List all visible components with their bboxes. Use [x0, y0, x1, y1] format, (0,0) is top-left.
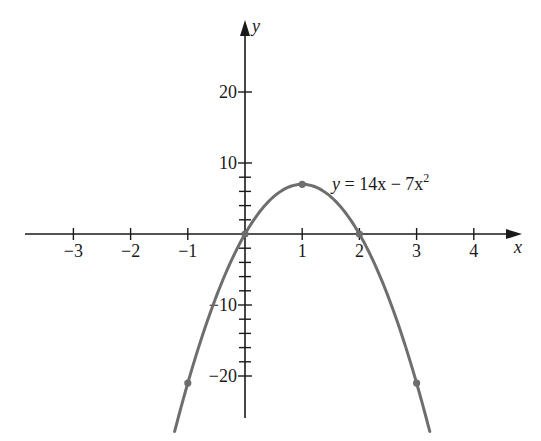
y-tick-label: −20: [209, 366, 237, 386]
y-axis-label: y: [250, 16, 260, 36]
x-tick-label: 2: [355, 241, 364, 261]
marked-points: [184, 181, 420, 387]
x-axis-label: x: [513, 237, 522, 257]
y-axis-arrow-icon: [240, 20, 250, 36]
data-point: [299, 181, 306, 188]
data-point: [413, 380, 420, 387]
y-tick-label: 20: [219, 82, 237, 102]
equation-label: y = 14x − 7x2: [330, 171, 429, 194]
x-tick-label: 4: [469, 241, 478, 261]
x-ticks: −3−2−11234: [64, 228, 478, 261]
x-tick-label: 3: [412, 241, 421, 261]
data-point: [184, 380, 191, 387]
axes: x y: [25, 16, 522, 418]
y-tick-label: 10: [219, 153, 237, 173]
parabola-curve: [175, 184, 430, 431]
x-tick-label: 1: [298, 241, 307, 261]
data-point: [356, 230, 363, 237]
x-tick-label: −3: [64, 241, 83, 261]
data-point: [241, 230, 248, 237]
x-tick-label: −1: [178, 241, 197, 261]
x-tick-label: −2: [121, 241, 140, 261]
parabola-plot: x y −3−2−11234 2010−10−20 y = 14x − 7x2: [0, 0, 541, 441]
